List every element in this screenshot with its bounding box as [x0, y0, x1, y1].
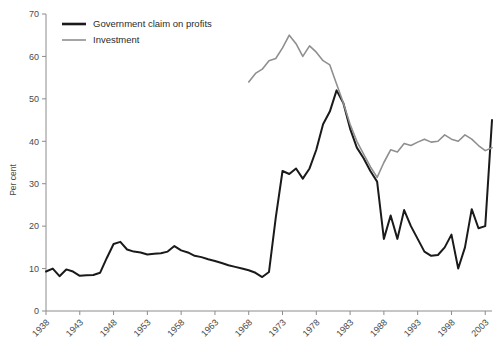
y-tick-label: 70 — [29, 9, 39, 19]
series-line-investment — [249, 35, 492, 177]
x-tick-label: 1998 — [436, 317, 457, 338]
x-tick-label: 1968 — [233, 317, 254, 338]
x-tick-label: 1973 — [267, 317, 288, 338]
x-tick-label: 1983 — [334, 317, 355, 338]
y-axis-title: Per cent — [8, 164, 18, 196]
chart-legend: Government claim on profitsInvestment — [62, 18, 212, 45]
x-tick-label: 2003 — [469, 317, 490, 338]
y-tick-label: 20 — [29, 221, 39, 231]
y-tick-group: 010203040506070 — [29, 9, 46, 316]
x-tick-label: 1938 — [30, 317, 51, 338]
x-tick-label: 1958 — [165, 317, 186, 338]
line-chart-plot: 010203040506070 193819431948195319581963… — [0, 0, 498, 353]
chart-container: 010203040506070 193819431948195319581963… — [0, 0, 498, 353]
legend-label-0: Government claim on profits — [93, 18, 212, 29]
x-tick-label: 1943 — [64, 317, 85, 338]
series-group — [46, 35, 492, 277]
x-tick-label: 1963 — [199, 317, 220, 338]
y-tick-label: 40 — [29, 137, 39, 147]
series-line-government-claim-on-profits — [46, 90, 492, 277]
y-tick-label: 0 — [34, 306, 39, 316]
x-axis: 1938194319481953195819631968197319781983… — [30, 311, 492, 339]
x-tick-label: 1948 — [98, 317, 119, 338]
y-tick-label: 10 — [29, 264, 39, 274]
y-axis: 010203040506070 — [29, 9, 46, 316]
x-tick-label: 1953 — [132, 317, 153, 338]
y-tick-label: 60 — [29, 52, 39, 62]
x-tick-label: 1988 — [368, 317, 389, 338]
y-tick-label: 50 — [29, 94, 39, 104]
y-tick-label: 30 — [29, 179, 39, 189]
legend-label-1: Investment — [93, 34, 140, 45]
x-tick-label: 1978 — [300, 317, 321, 338]
x-tick-group: 1938194319481953195819631968197319781983… — [30, 311, 490, 339]
x-tick-label: 1993 — [402, 317, 423, 338]
